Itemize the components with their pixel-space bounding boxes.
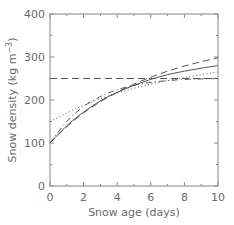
x-tick-label: 2 — [80, 191, 87, 204]
series-dotted-line — [50, 72, 218, 121]
x-tick-label: 6 — [147, 191, 154, 204]
y-tick-label: 300 — [24, 51, 45, 64]
y-tick-label: 0 — [38, 180, 45, 193]
plot-frame — [50, 14, 218, 186]
axis-ticks — [50, 14, 218, 186]
series-long-dash-line — [50, 58, 218, 143]
x-tick-label: 4 — [114, 191, 121, 204]
y-tick-label: 200 — [24, 94, 45, 107]
x-tick-label: 10 — [211, 191, 225, 204]
data-series — [50, 58, 218, 143]
tick-labels: 02468100100200300400 — [24, 8, 225, 204]
snow-density-chart: 02468100100200300400 Snow age (days) Sno… — [0, 0, 234, 225]
y-tick-label: 400 — [24, 8, 45, 21]
x-tick-label: 8 — [181, 191, 188, 204]
y-tick-label: 100 — [24, 137, 45, 150]
series-solid-line — [50, 66, 218, 143]
series-dash-dot-line — [50, 79, 218, 144]
x-tick-label: 0 — [47, 191, 54, 204]
y-axis-label: Snow density (kg m−3) — [5, 38, 19, 163]
x-axis-label: Snow age (days) — [88, 206, 180, 219]
